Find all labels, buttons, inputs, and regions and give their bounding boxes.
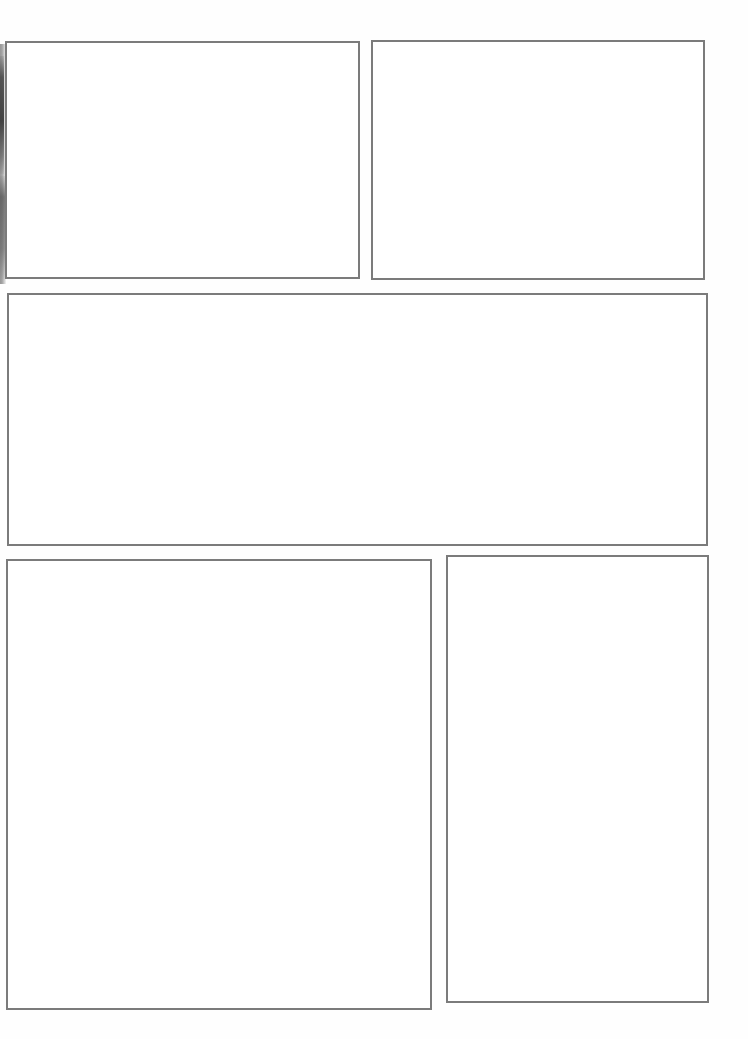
panel-bottom-right-content: [448, 557, 707, 1001]
panel-bottom-left[interactable]: [6, 559, 432, 1010]
panel-bottom-right[interactable]: [446, 555, 709, 1003]
panel-top-right-content: [373, 42, 703, 278]
panel-bottom-left-content: [8, 561, 430, 1008]
panel-top-left[interactable]: [5, 41, 360, 279]
scanned-page: [0, 0, 748, 1039]
panel-middle-wide-content: [9, 295, 706, 544]
left-scan-edge-artifact-upper: [0, 56, 4, 174]
panel-top-right[interactable]: [371, 40, 705, 280]
panel-top-left-content: [7, 43, 358, 277]
panel-middle-wide[interactable]: [7, 293, 708, 546]
